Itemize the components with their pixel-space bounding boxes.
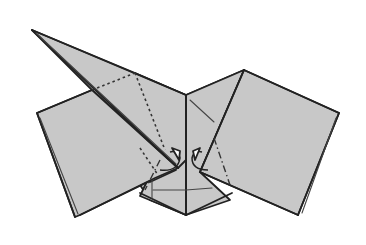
origami-diagram (0, 0, 366, 245)
